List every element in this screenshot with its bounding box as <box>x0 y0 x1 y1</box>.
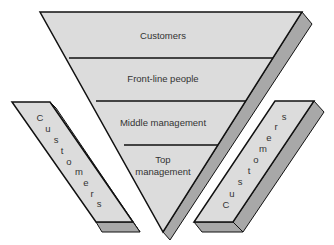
svg-text:t: t <box>61 145 64 156</box>
level-top-label-line1: Top <box>155 154 170 165</box>
level-top-label-line2: management <box>135 166 191 177</box>
level-middle-management: Middle management <box>120 117 206 128</box>
svg-text:e: e <box>266 132 271 143</box>
svg-text:s: s <box>282 111 287 122</box>
svg-text:r: r <box>274 121 277 132</box>
svg-text:o: o <box>253 154 258 165</box>
level-customers: Customers <box>140 30 186 41</box>
left-support-bottom <box>96 222 140 232</box>
svg-text:C: C <box>37 112 44 123</box>
svg-text:m: m <box>259 143 267 154</box>
svg-text:u: u <box>229 188 234 199</box>
inverted-pyramid-diagram: Customers Front-line people Middle manag… <box>0 0 334 245</box>
level-front-line-people: Front-line people <box>127 73 198 84</box>
svg-text:t: t <box>248 165 251 176</box>
svg-text:u: u <box>45 123 50 134</box>
svg-text:s: s <box>238 176 243 187</box>
svg-text:s: s <box>54 134 59 145</box>
svg-text:o: o <box>66 156 71 167</box>
svg-text:e: e <box>83 177 88 188</box>
svg-text:s: s <box>97 198 102 209</box>
svg-text:m: m <box>75 166 83 177</box>
svg-text:C: C <box>223 199 230 210</box>
svg-text:r: r <box>90 188 93 199</box>
